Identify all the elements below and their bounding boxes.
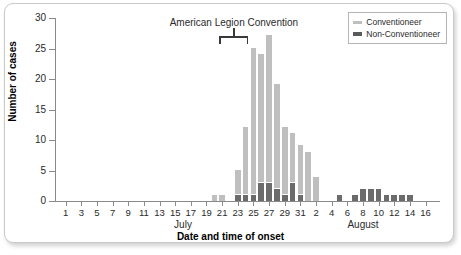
x-tick-mark xyxy=(144,201,145,206)
bar-segment-conventioneer xyxy=(274,84,280,188)
x-tick-mark xyxy=(113,201,114,206)
x-tick-label: 4 xyxy=(324,207,340,219)
x-tick-mark xyxy=(81,201,82,206)
bar-column xyxy=(274,84,280,201)
x-tick-mark xyxy=(160,201,161,206)
x-tick-label: 14 xyxy=(402,207,418,219)
x-tick-mark xyxy=(363,201,364,206)
bar-column xyxy=(360,189,366,201)
y-tick-label: 5 xyxy=(24,164,46,177)
bar-column xyxy=(384,195,390,201)
legend-swatch-non-conventioneer-icon xyxy=(353,32,362,36)
x-tick-mark xyxy=(191,201,192,206)
legend-item-non-conventioneer: Non-Conventioneer xyxy=(353,28,440,40)
x-tick-label: 21 xyxy=(214,207,230,219)
bar-column xyxy=(298,145,304,201)
bar-column xyxy=(266,35,272,201)
x-tick-label: 6 xyxy=(339,207,355,219)
bar-column xyxy=(251,48,257,201)
plot-area xyxy=(55,18,440,201)
x-tick-mark xyxy=(316,201,317,206)
x-axis-title: Date and time of onset xyxy=(0,231,461,242)
x-tick-mark xyxy=(128,201,129,206)
x-tick-mark xyxy=(332,201,333,206)
y-axis-title: Number of cases xyxy=(7,7,18,157)
y-tick-label: 15 xyxy=(24,103,46,116)
bar-segment-non-conventioneer xyxy=(274,189,280,201)
bar-segment-non-conventioneer xyxy=(376,189,382,201)
bar-column xyxy=(376,189,382,201)
x-tick-label: 5 xyxy=(89,207,105,219)
bar-column xyxy=(290,133,296,201)
x-tick-mark xyxy=(300,201,301,206)
epidemic-curve-figure: Number of cases 051015202530 13579111315… xyxy=(0,0,461,255)
bar-segment-conventioneer xyxy=(258,54,264,182)
legend-item-conventioneer: Conventioneer xyxy=(353,16,440,28)
x-tick-mark xyxy=(410,201,411,206)
bar-group xyxy=(55,18,440,201)
x-tick-label: 27 xyxy=(261,207,277,219)
x-tick-label: 23 xyxy=(230,207,246,219)
y-tick-label: 20 xyxy=(24,72,46,85)
bar-segment-conventioneer xyxy=(313,177,319,201)
x-tick-mark xyxy=(269,201,270,206)
bar-segment-non-conventioneer xyxy=(290,183,296,201)
y-tick-mark xyxy=(49,201,55,202)
convention-annotation-label: American Legion Convention xyxy=(139,17,329,28)
x-tick-mark xyxy=(238,201,239,206)
bar-segment-conventioneer xyxy=(266,35,272,181)
convention-annotation-bracket xyxy=(219,32,248,43)
x-tick-label: 16 xyxy=(418,207,434,219)
x-tick-label: 19 xyxy=(198,207,214,219)
bar-segment-non-conventioneer xyxy=(352,195,358,201)
bar-segment-non-conventioneer xyxy=(337,195,343,201)
x-tick-mark xyxy=(206,201,207,206)
bar-column xyxy=(235,170,241,201)
x-tick-label: 25 xyxy=(245,207,261,219)
x-tick-label: 31 xyxy=(292,207,308,219)
x-tick-label: 17 xyxy=(183,207,199,219)
bar-column xyxy=(243,127,249,201)
x-tick-mark xyxy=(253,201,254,206)
bar-column xyxy=(313,177,319,201)
y-tick-label: 25 xyxy=(24,42,46,55)
x-tick-label: 9 xyxy=(120,207,136,219)
x-tick-label: 13 xyxy=(152,207,168,219)
x-tick-mark xyxy=(222,201,223,206)
legend: Conventioneer Non-Conventioneer xyxy=(348,12,447,44)
bar-segment-non-conventioneer xyxy=(266,183,272,201)
x-tick-label: 10 xyxy=(371,207,387,219)
x-tick-label: 15 xyxy=(167,207,183,219)
x-tick-mark xyxy=(66,201,67,206)
bar-segment-non-conventioneer xyxy=(243,195,249,201)
bar-column xyxy=(352,195,358,201)
bar-segment-conventioneer xyxy=(243,127,249,194)
bar-segment-non-conventioneer xyxy=(399,195,405,201)
bar-segment-conventioneer xyxy=(290,133,296,182)
month-label-august: August xyxy=(333,219,393,230)
bar-column xyxy=(368,189,374,201)
bar-column xyxy=(305,152,311,201)
bar-segment-conventioneer xyxy=(305,152,311,201)
bar-segment-conventioneer xyxy=(251,48,257,194)
x-tick-label: 11 xyxy=(136,207,152,219)
bracket-left-arm xyxy=(219,36,221,44)
bar-segment-non-conventioneer xyxy=(360,189,366,201)
bar-column xyxy=(212,195,218,201)
y-tick-label: 10 xyxy=(24,133,46,146)
bar-column xyxy=(282,127,288,201)
x-tick-mark xyxy=(426,201,427,206)
x-tick-mark xyxy=(394,201,395,206)
bar-segment-non-conventioneer xyxy=(384,195,390,201)
bar-segment-non-conventioneer xyxy=(258,183,264,201)
x-tick-mark xyxy=(285,201,286,206)
legend-label-non-conventioneer: Non-Conventioneer xyxy=(366,29,440,40)
y-tick-label: 0 xyxy=(24,194,46,207)
x-tick-label: 1 xyxy=(58,207,74,219)
y-tick-label: 30 xyxy=(24,11,46,24)
bar-column xyxy=(337,195,343,201)
x-tick-label: 2 xyxy=(308,207,324,219)
bar-segment-conventioneer xyxy=(298,145,304,194)
bracket-top xyxy=(219,36,248,38)
x-tick-mark xyxy=(175,201,176,206)
